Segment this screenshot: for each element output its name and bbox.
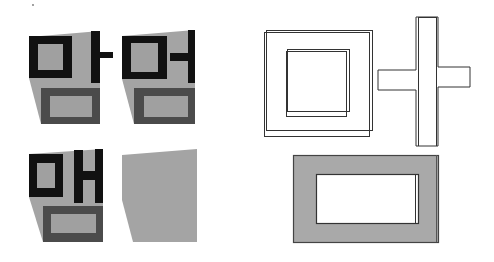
frame-inner-a [288,50,350,112]
final-square-inner [51,214,96,233]
outlined-cross-shape [378,17,470,146]
vowel-right-bar [95,149,103,203]
gray-frame-inner-hole [317,175,419,224]
outline-shape-group [265,17,471,243]
vowel-crossbar [83,171,95,180]
glyph-panel-meom [122,30,195,124]
initial-square-inner [38,44,63,70]
gray-rectangle-frame [294,155,439,243]
cross-outline [378,17,470,146]
initial-square-inner [131,43,158,72]
vowel-tick-left [170,53,188,61]
initial-square-inner [37,163,55,188]
filled-glyph-grid [29,4,197,242]
glyph-mask-region [122,149,197,242]
figure-canvas [0,0,494,262]
glyph-panel-mask-only [122,149,197,242]
vowel-vertical-bar [188,30,195,83]
glyph-decomposition-diagram [0,0,494,262]
glyph-panel-maem [29,149,103,242]
frame-outer-a [267,31,373,131]
frame-outer-b [265,33,370,137]
stray-dot [32,4,34,6]
frame-inner-b [287,52,347,117]
final-square-inner [50,96,92,117]
outlined-square-frame [265,31,373,137]
glyph-panel-mam [29,31,113,124]
vowel-left-bar [74,150,83,203]
vowel-vertical-bar [91,31,100,83]
final-square-inner [144,96,188,117]
vowel-tick-right [100,52,113,58]
